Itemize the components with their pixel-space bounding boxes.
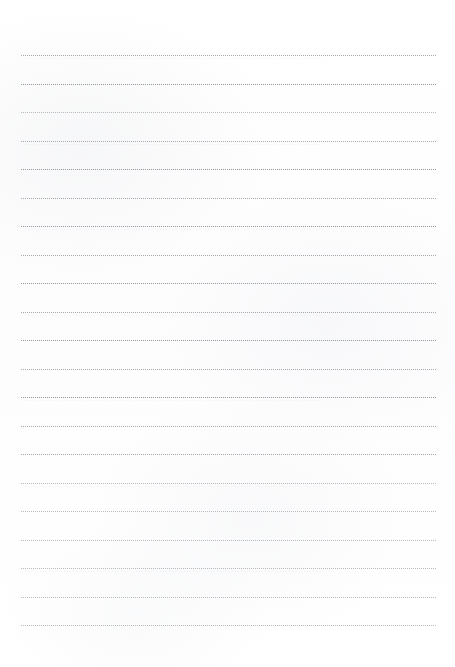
ruled-line-echo-16 [25, 486, 324, 487]
ruled-line-17 [21, 511, 436, 512]
ruled-line-11 [21, 340, 436, 341]
ruled-line-echo-7 [25, 229, 324, 230]
ruled-line-1 [21, 55, 436, 56]
ruled-line-echo-10 [25, 315, 324, 316]
ruled-line-echo-1 [25, 58, 324, 59]
ruled-line-20 [21, 597, 436, 598]
ruled-line-echo-4 [25, 144, 324, 145]
ruled-line-16 [21, 483, 436, 484]
ruled-line-14 [21, 426, 436, 427]
ruled-line-8 [21, 255, 436, 256]
paper-page [0, 0, 455, 667]
ruled-line-19 [21, 568, 436, 569]
ruled-lines-layer [0, 0, 455, 667]
ruled-line-echo-19 [25, 571, 324, 572]
ruled-line-2 [21, 84, 436, 85]
ruled-line-7 [21, 226, 436, 227]
ruled-line-12 [21, 369, 436, 370]
ruled-line-13 [21, 397, 436, 398]
ruled-line-10 [21, 312, 436, 313]
ruled-line-echo-13 [25, 400, 324, 401]
ruled-line-4 [21, 141, 436, 142]
ruled-line-3 [21, 112, 436, 113]
ruled-line-21 [21, 625, 436, 626]
ruled-line-5 [21, 169, 436, 170]
ruled-line-6 [21, 198, 436, 199]
ruled-line-15 [21, 454, 436, 455]
ruled-line-9 [21, 283, 436, 284]
ruled-line-18 [21, 540, 436, 541]
